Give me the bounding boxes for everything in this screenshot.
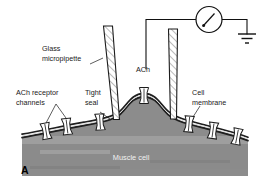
figure-panel-a: Glass micropipette ACh receptor channels… xyxy=(0,0,264,189)
cell-membrane-line2: membrane xyxy=(192,98,226,107)
ground-symbol xyxy=(238,34,256,43)
ach-receptor-channels-line2: channels xyxy=(16,98,45,107)
label-muscle-cell: Muscle cell xyxy=(113,153,150,162)
galvanometer-meter xyxy=(196,7,222,33)
label-glass-micropipette: Glass micropipette xyxy=(42,44,81,63)
label-cell-membrane: Cell membrane xyxy=(192,88,226,107)
tight-seal-line1: Tight xyxy=(85,88,101,97)
patch-clamp-diagram: Glass micropipette ACh receptor channels… xyxy=(0,0,264,189)
glass-micropipette-line2: micropipette xyxy=(42,54,81,63)
leader-cell-membrane xyxy=(193,106,200,117)
leader-glass-micropipette xyxy=(90,58,103,64)
tight-seal-line2: seal xyxy=(85,98,99,107)
label-tight-seal: Tight seal xyxy=(85,88,101,107)
glass-micropipette-right xyxy=(169,29,178,119)
ach-receptor-channels-line1: ACh receptor xyxy=(16,88,59,97)
label-ach-receptor-channels: ACh receptor channels xyxy=(16,88,59,107)
leader-ach-receptor-a xyxy=(46,104,56,123)
glass-micropipette-line1: Glass xyxy=(42,44,61,53)
panel-letter: A xyxy=(21,164,29,176)
recording-circuit xyxy=(146,7,256,70)
cell-membrane-line1: Cell xyxy=(192,88,205,97)
glass-micropipette-left xyxy=(104,26,120,120)
channel xyxy=(95,114,105,131)
channel xyxy=(139,88,148,104)
label-ach: ACh xyxy=(136,65,150,74)
leader-ach-receptor-b xyxy=(56,104,66,118)
